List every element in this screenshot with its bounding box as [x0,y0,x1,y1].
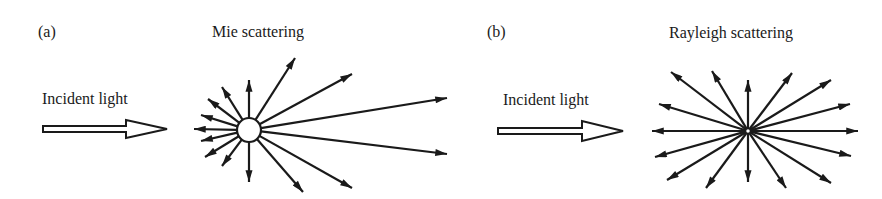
scatter-arrow-icon [255,58,295,120]
scatter-arrow-icon [750,80,831,130]
scatter-arrow-icon [667,132,746,180]
scatter-arrow-icon [712,71,747,129]
scatter-arrow-icon [750,132,851,156]
mie-incident-label: Incident light [42,90,128,108]
scatter-arrow-icon [222,87,243,120]
mie-title: Mie scattering [212,23,304,41]
scatter-arrow-icon [750,132,831,183]
scatter-arrow-icon [261,98,447,128]
rayleigh-title: Rayleigh scattering [669,24,793,42]
scatter-arrow-icon [261,131,447,154]
incident-light-arrow-icon [498,121,623,141]
scatter-arrow-icon [749,133,786,188]
scatter-arrow-icon [260,74,352,124]
rayleigh-particle [746,129,751,134]
panel-b-rayleigh: (b) Rayleigh scattering Incident light [487,23,858,188]
scatter-arrow-icon [671,72,746,129]
rayleigh-scatter-rays [652,71,858,188]
scatter-arrow-icon [194,129,237,130]
incident-light-arrow-icon [43,120,167,138]
panel-a-tag: (a) [38,23,56,41]
mie-particle [237,118,261,142]
scatter-arrow-icon [659,104,746,130]
scattering-diagram: (a) Mie scattering Incident light (b) Ra… [0,0,882,199]
panel-a-mie: (a) Mie scattering Incident light [38,23,447,192]
mie-scatter-rays [194,58,447,192]
panel-b-tag: (b) [487,23,506,41]
rayleigh-incident-label: Incident light [503,91,589,109]
scatter-arrow-icon [259,136,352,188]
